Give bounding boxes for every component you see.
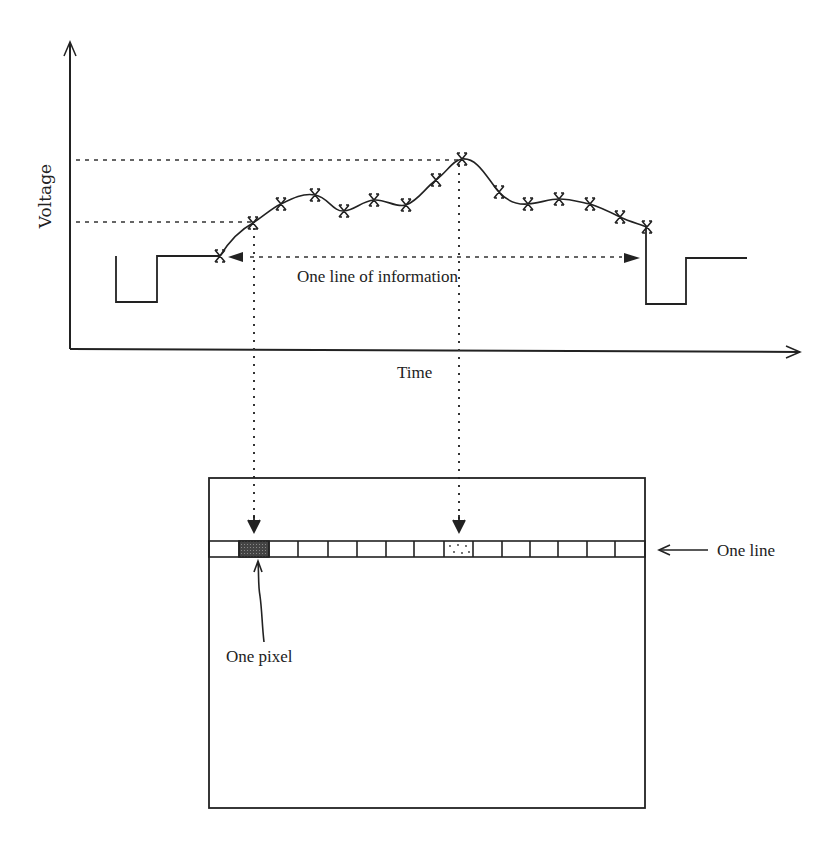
one-pixel-label: One pixel: [226, 648, 293, 665]
pixel-cell-dotted: [449, 544, 470, 554]
sample-marker-icon: [276, 198, 286, 210]
scan-line-row: [209, 541, 645, 557]
mapping-lines: [254, 165, 459, 522]
sample-marker-icon: [248, 217, 258, 229]
diagram-canvas: Voltage: [0, 0, 826, 845]
sync-pulses: [116, 227, 747, 304]
y-axis-label: Voltage: [35, 164, 55, 229]
left-arrowhead-icon: [228, 252, 243, 262]
sample-marker-icon: [494, 186, 504, 198]
arrow-down-icon: [248, 515, 260, 532]
sample-marker-icon: [431, 174, 441, 186]
left-sync-pulse: [116, 256, 220, 302]
mapping-arrows: [248, 515, 465, 532]
scan-line-frame: [209, 541, 645, 557]
sample-marker-icon: [615, 211, 625, 223]
screen-frame: [209, 478, 645, 808]
arrow-down-icon: [453, 515, 465, 532]
reference-levels: [76, 160, 462, 222]
right-sync-pulse: [646, 227, 747, 304]
pixel-pointer-arrow-icon: [254, 561, 264, 642]
pixel-cell-dark: [239, 541, 269, 557]
x-axis-label: Time: [397, 364, 432, 381]
sample-markers: [215, 153, 652, 262]
one-line-label: One line: [717, 542, 775, 559]
right-arrowhead-icon: [624, 253, 640, 263]
x-axis: [70, 349, 800, 352]
axes: [64, 42, 800, 358]
line-span-label: One line of information: [297, 268, 458, 285]
line-pointer-arrow-icon: [659, 545, 708, 555]
sample-marker-icon: [642, 221, 652, 233]
line-span-indicator: [228, 252, 640, 263]
